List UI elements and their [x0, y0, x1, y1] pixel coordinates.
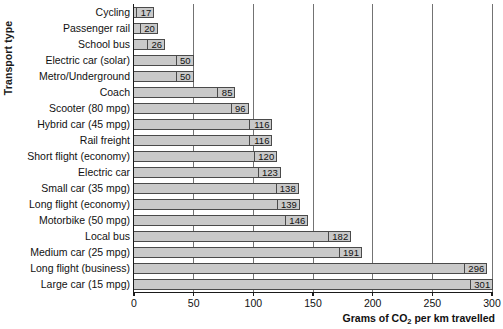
bar-row: Rail freight116	[134, 135, 492, 146]
category-label: Rail freight	[80, 133, 130, 147]
x-axis-title: Grams of CO2 per km travelled	[343, 312, 495, 324]
y-axis-title: Transport type	[0, 0, 16, 292]
bar-row: Local bus182	[134, 231, 492, 242]
category-label: Large car (15 mpg)	[41, 277, 130, 291]
bar	[134, 263, 487, 274]
x-tick-label: 100	[245, 297, 263, 310]
bar-value-label: 26	[147, 39, 165, 50]
bar-row: Medium car (25 mpg)191	[134, 247, 492, 258]
bar-row: Electric car123	[134, 167, 492, 178]
x-tick-mark-100	[253, 292, 254, 296]
bar-value-label: 50	[176, 55, 194, 66]
bar-row: Motorbike (50 mpg)146	[134, 215, 492, 226]
category-label: Electric car (solar)	[45, 53, 130, 67]
x-tick-mark-200	[372, 292, 373, 296]
bar-row: Hybrid car (45 mpg)116	[134, 119, 492, 130]
bar-row: Coach85	[134, 87, 492, 98]
bar-value-label: 146	[285, 215, 308, 226]
bar-value-label: 139	[277, 199, 300, 210]
bar-row: Electric car (solar)50	[134, 55, 492, 66]
x-tick-label: 250	[424, 297, 442, 310]
category-label: Long flight (business)	[30, 261, 130, 275]
bar	[134, 183, 299, 194]
x-tick-mark-50	[193, 292, 194, 296]
bar-value-label: 20	[140, 23, 158, 34]
category-label: Local bus	[85, 229, 130, 243]
plot-area: Cycling17Passenger rail20School bus26Ele…	[134, 4, 492, 292]
bar-row: Long flight (economy)139	[134, 199, 492, 210]
bar-value-label: 96	[231, 103, 249, 114]
bar	[134, 247, 362, 258]
x-tick-label: 150	[304, 297, 322, 310]
co2-transport-bar-chart: Transport type Cycling17Passenger rail20…	[0, 0, 503, 329]
bar	[134, 199, 300, 210]
bar	[134, 215, 308, 226]
bar-row: Long flight (business)296	[134, 263, 492, 274]
category-label: Small car (35 mpg)	[41, 181, 130, 195]
x-tick-mark-150	[312, 292, 313, 296]
bar-value-label: 116	[249, 135, 272, 146]
x-tick-mark-0	[133, 292, 134, 296]
bar-row: Passenger rail20	[134, 23, 492, 34]
bar-row: Small car (35 mpg)138	[134, 183, 492, 194]
x-tick-mark-300	[491, 292, 492, 296]
bar-value-label: 85	[217, 87, 235, 98]
bar-value-label: 191	[339, 247, 362, 258]
x-axis-title-before: Grams of CO	[343, 312, 408, 324]
bar-row: Large car (15 mpg)301	[134, 279, 492, 290]
bar	[134, 279, 493, 290]
bar-value-label: 50	[176, 71, 194, 82]
category-label: Medium car (25 mpg)	[30, 245, 130, 259]
bar-row: Scooter (80 mpg)96	[134, 103, 492, 114]
category-label: Scooter (80 mpg)	[49, 101, 130, 115]
bar-value-label: 123	[258, 167, 281, 178]
bar-value-label: 116	[249, 119, 272, 130]
bar-row: School bus26	[134, 39, 492, 50]
bar-value-label: 296	[464, 263, 487, 274]
category-label: Short flight (economy)	[27, 149, 130, 163]
category-label: School bus	[78, 37, 130, 51]
bar-row: Metro/Underground50	[134, 71, 492, 82]
bar-value-label: 17	[136, 7, 154, 18]
x-tick-label: 0	[131, 297, 137, 310]
category-label: Cycling	[96, 5, 130, 19]
x-tick-label: 200	[364, 297, 382, 310]
x-tick-label: 50	[188, 297, 200, 310]
category-label: Metro/Underground	[39, 69, 130, 83]
x-axis-title-after: per km travelled	[412, 312, 495, 324]
x-tick-mark-250	[432, 292, 433, 296]
category-label: Long flight (economy)	[29, 197, 130, 211]
bar	[134, 231, 351, 242]
category-label: Coach	[100, 85, 130, 99]
category-label: Passenger rail	[63, 21, 130, 35]
category-label: Hybrid car (45 mpg)	[37, 117, 130, 131]
bar-value-label: 182	[328, 231, 351, 242]
category-label: Electric car	[78, 165, 130, 179]
bar-value-label: 301	[470, 279, 493, 290]
x-tick-label: 300	[483, 297, 501, 310]
category-label: Motorbike (50 mpg)	[39, 213, 130, 227]
bar-value-label: 120	[254, 151, 277, 162]
y-axis-title-text: Transport type	[2, 21, 14, 95]
bar-value-label: 138	[276, 183, 299, 194]
bar-row: Short flight (economy)120	[134, 151, 492, 162]
bar-row: Cycling17	[134, 7, 492, 18]
x-axis-title-subscript: 2	[407, 317, 411, 326]
